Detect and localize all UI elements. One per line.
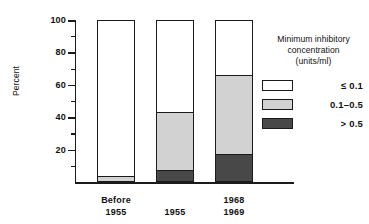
y-tick-40: [68, 117, 76, 119]
legend-label-high: > 0.5: [293, 118, 369, 129]
legend-label-mid: 0.1–0.5: [293, 99, 369, 110]
legend-title-line3: (units/ml): [258, 56, 369, 67]
bar-segment-mid-3: [216, 75, 252, 153]
bar-before-1955[interactable]: [97, 20, 135, 182]
bar-label-line1: Before: [74, 195, 158, 207]
y-minor-tick-50: [71, 101, 76, 102]
y-tick-label-80: 80: [20, 47, 66, 57]
y-minor-tick-90: [71, 36, 76, 37]
stacked-bar-chart: Percent 100 80 60 40 20 Before 1955: [0, 0, 369, 224]
bar-1968-1969[interactable]: [215, 20, 253, 182]
bar-segment-low-3: [216, 21, 252, 75]
bar-1955[interactable]: [156, 20, 194, 182]
legend-item-mid[interactable]: 0.1–0.5: [262, 96, 369, 112]
legend-label-low: ≤ 0.1: [293, 80, 369, 91]
bar-label-1968-1969: 1968 1969: [192, 195, 276, 218]
legend-title-line1: Minimum inhibitory: [258, 34, 369, 45]
bar-segment-mid-1: [98, 176, 134, 181]
y-tick-label-60: 60: [20, 80, 66, 90]
legend-swatch-high: [262, 118, 293, 129]
legend-items: ≤ 0.1 0.1–0.5 > 0.5: [258, 77, 369, 131]
bar-segment-mid-2: [157, 112, 193, 170]
bar-segment-high-2: [157, 170, 193, 181]
y-tick-100: [68, 20, 76, 22]
y-tick-label-100: 100: [20, 15, 66, 25]
y-tick-80: [68, 52, 76, 54]
legend: Minimum inhibitory concentration (units/…: [258, 34, 369, 134]
legend-title: Minimum inhibitory concentration (units/…: [258, 34, 369, 67]
bar-segment-low-2: [157, 21, 193, 112]
y-minor-tick-30: [71, 133, 76, 134]
legend-item-high[interactable]: > 0.5: [262, 115, 369, 131]
x-axis-line: [75, 182, 294, 184]
y-tick-60: [68, 85, 76, 87]
bar-segment-high-3: [216, 154, 252, 181]
legend-item-low[interactable]: ≤ 0.1: [262, 77, 369, 93]
y-tick-label-20: 20: [20, 145, 66, 155]
legend-title-line2: concentration: [258, 45, 369, 56]
y-tick-20: [68, 150, 76, 152]
bar-label-line1: 1968: [192, 195, 276, 207]
legend-swatch-mid: [262, 99, 293, 110]
legend-swatch-low: [262, 80, 293, 91]
bar-label-line2: 1969: [192, 207, 276, 219]
y-minor-tick-10: [71, 166, 76, 167]
y-tick-label-40: 40: [20, 112, 66, 122]
bar-segment-low-1: [98, 21, 134, 176]
y-minor-tick-70: [71, 69, 76, 70]
